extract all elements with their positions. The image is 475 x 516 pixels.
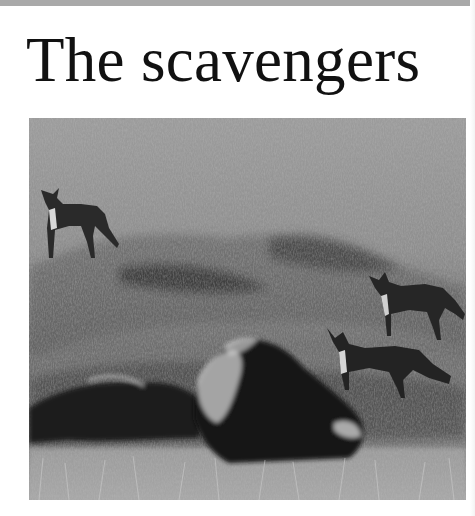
- page-edge: [470, 0, 475, 516]
- scavengers-photo: [29, 118, 466, 500]
- photograph: [29, 118, 466, 500]
- page-title: The scavengers: [26, 22, 420, 98]
- top-strip: [0, 0, 475, 6]
